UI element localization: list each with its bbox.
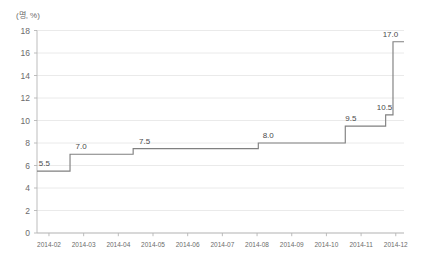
x-axis-tick-label: 2014-04	[106, 241, 130, 248]
data-point-label: 5.5	[39, 159, 51, 168]
y-axis-tick-label: 4	[25, 183, 30, 193]
axis-lines	[37, 31, 404, 234]
x-axis-tick-label: 2014-10	[314, 241, 338, 248]
chart-container: (명, %) 024681012141618 2014-022014-03201…	[0, 0, 421, 264]
y-axis-tick-label: 8	[25, 138, 30, 148]
gridlines	[37, 31, 404, 234]
y-axis-tick-label: 14	[21, 71, 31, 81]
x-axis-tick-label: 2014-09	[280, 241, 304, 248]
y-axis-tick-label: 6	[25, 161, 30, 171]
x-axis-tick-label: 2014-11	[349, 241, 373, 248]
x-axis-tick-label: 2014-05	[141, 241, 165, 248]
data-point-label: 17.0	[383, 30, 399, 39]
data-point-label: 9.5	[345, 114, 357, 123]
x-axis-tick-label: 2014-08	[245, 241, 269, 248]
x-axis-ticks: 2014-022014-032014-042014-052014-062014-…	[37, 233, 408, 248]
data-point-label: 8.0	[263, 131, 275, 140]
x-axis-tick-label: 2014-03	[72, 241, 96, 248]
data-point-label: 7.0	[75, 142, 87, 151]
y-axis-tick-label: 12	[21, 93, 31, 103]
step-line-chart: 024681012141618 2014-022014-032014-04201…	[0, 0, 421, 264]
data-point-label: 7.5	[139, 137, 151, 146]
y-axis-tick-label: 10	[21, 116, 31, 126]
y-axis-tick-label: 18	[21, 26, 31, 36]
x-axis-tick-label: 2014-06	[176, 241, 200, 248]
y-axis-tick-label: 0	[25, 228, 30, 238]
x-axis-tick-label: 2014-07	[210, 241, 234, 248]
x-axis-tick-label: 2014-12	[384, 241, 408, 248]
x-axis-tick-label: 2014-02	[37, 241, 61, 248]
step-line-path	[37, 42, 404, 171]
y-axis-ticks: 024681012141618	[21, 26, 37, 239]
data-point-label: 10.5	[377, 103, 393, 112]
y-axis-tick-label: 2	[25, 206, 30, 216]
y-axis-tick-label: 16	[21, 48, 31, 58]
data-point-labels: 5.57.07.58.09.510.517.0	[39, 30, 399, 168]
data-series	[37, 42, 404, 171]
